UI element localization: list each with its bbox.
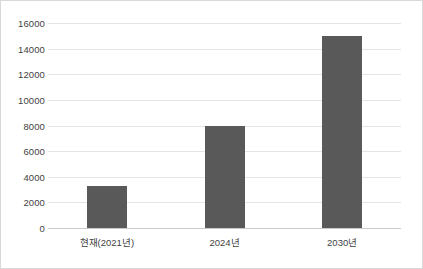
y-tick-label: 10000 xyxy=(18,94,45,105)
y-tick-label: 4000 xyxy=(23,171,45,182)
x-tick-label: 2030년 xyxy=(327,235,357,249)
y-axis: 0200040006000800010000120001400016000 xyxy=(1,1,45,269)
gridline xyxy=(48,23,401,24)
bar xyxy=(87,186,127,228)
y-tick-label: 14000 xyxy=(18,43,45,54)
y-tick-label: 12000 xyxy=(18,69,45,80)
x-axis: 현재(2021년)2024년2030년 xyxy=(48,235,401,253)
y-tick-label: 16000 xyxy=(18,18,45,29)
bar-chart: 0200040006000800010000120001400016000 현재… xyxy=(0,0,423,269)
x-tick-label: 2024년 xyxy=(209,235,239,249)
axis-baseline xyxy=(48,228,401,229)
x-tick-label: 현재(2021년) xyxy=(80,235,134,249)
y-tick-label: 0 xyxy=(40,223,45,234)
y-tick-label: 2000 xyxy=(23,197,45,208)
y-tick-label: 6000 xyxy=(23,146,45,157)
y-tick-label: 8000 xyxy=(23,120,45,131)
bar xyxy=(322,36,362,228)
plot-area xyxy=(48,23,401,228)
bar xyxy=(205,126,245,229)
